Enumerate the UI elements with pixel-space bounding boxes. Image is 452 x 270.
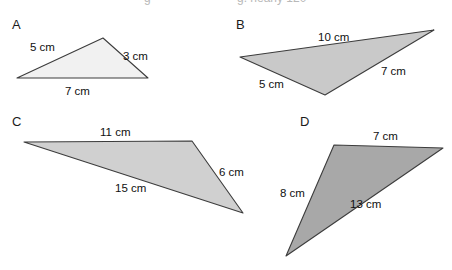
- triangle-d-side-8cm: 8 cm: [280, 187, 305, 199]
- triangle-d-side-13cm: 13 cm: [350, 198, 381, 210]
- triangle-b-side-10cm: 10 cm: [318, 31, 349, 43]
- triangle-d-side-7cm: 7 cm: [373, 130, 398, 142]
- triangle-c-shape: [24, 141, 243, 213]
- triangle-b-label: B: [236, 17, 245, 32]
- triangle-c-side-6cm: 6 cm: [219, 166, 244, 178]
- triangle-b-side-5cm: 5 cm: [259, 78, 284, 90]
- triangle-c-side-11cm: 11 cm: [100, 126, 130, 138]
- triangle-c-side-15cm: 15 cm: [115, 182, 146, 194]
- triangle-b-side-7cm: 7 cm: [381, 65, 406, 77]
- triangle-a-side-3cm: 3 cm: [123, 50, 148, 62]
- triangle-group-b: B 10 cm 7 cm 5 cm: [236, 17, 434, 95]
- triangle-group-a: A 5 cm 3 cm 7 cm: [12, 17, 148, 97]
- triangle-c-label: C: [12, 114, 21, 129]
- triangle-group-d: D 7 cm 8 cm 13 cm: [280, 114, 443, 256]
- figure-page: g g. nearly 120° A 5 cm 3 cm 7 cm B 10 c…: [0, 0, 452, 270]
- triangle-a-side-7cm: 7 cm: [65, 85, 90, 97]
- triangle-a-label: A: [12, 17, 21, 32]
- triangles-diagram: A 5 cm 3 cm 7 cm B 10 cm 7 cm 5 cm C 11 …: [0, 0, 452, 270]
- triangle-group-c: C 11 cm 6 cm 15 cm: [12, 114, 244, 213]
- triangle-d-label: D: [300, 114, 309, 129]
- triangle-a-side-5cm: 5 cm: [30, 41, 55, 53]
